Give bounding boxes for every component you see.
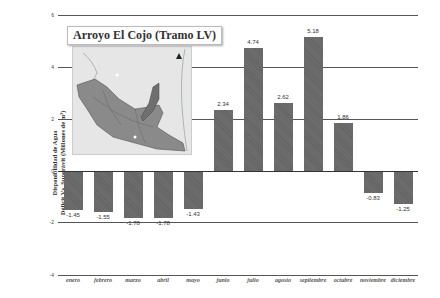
bar-agosto bbox=[274, 103, 293, 171]
bar-julio bbox=[244, 48, 263, 171]
bar-diciembre bbox=[394, 172, 413, 204]
x-tick-label: enero bbox=[56, 277, 90, 283]
y-tick: 0 bbox=[44, 168, 54, 174]
y-tick: -2 bbox=[44, 219, 54, 225]
value-label: 5.18 bbox=[295, 28, 331, 34]
x-tick-label: noviembre bbox=[356, 277, 390, 283]
x-tick-label: agosto bbox=[266, 277, 300, 283]
bar-marzo bbox=[124, 172, 143, 218]
bar-septiembre bbox=[304, 37, 323, 171]
value-label: 1.86 bbox=[325, 114, 361, 120]
gridline-neg2 bbox=[58, 222, 418, 223]
y-tick: 4 bbox=[44, 64, 54, 70]
bar-abril bbox=[154, 172, 173, 218]
x-tick-label: julio bbox=[236, 277, 270, 283]
value-label: -1.25 bbox=[385, 206, 421, 212]
y-tick: 2 bbox=[44, 116, 54, 122]
value-label: 2.34 bbox=[205, 101, 241, 107]
bar-noviembre bbox=[364, 172, 383, 193]
map-icon bbox=[73, 47, 191, 154]
value-label: -0.83 bbox=[355, 195, 391, 201]
value-label: 4.74 bbox=[235, 39, 271, 45]
value-label: -1.78 bbox=[145, 220, 181, 226]
chart-title: Arroyo El Cojo (Tramo LV) bbox=[67, 26, 222, 45]
gridline-neg4 bbox=[58, 275, 418, 276]
x-tick-label: junio bbox=[206, 277, 240, 283]
x-tick-label: diciembre bbox=[386, 277, 420, 283]
value-label: -1.43 bbox=[175, 211, 211, 217]
y-tick: 6 bbox=[44, 12, 54, 18]
bar-chart: Disponibilidad de Agua Déficit Vs. Super… bbox=[0, 0, 440, 298]
y-tick: -4 bbox=[44, 272, 54, 278]
bar-junio bbox=[214, 110, 233, 171]
bar-octubre bbox=[334, 123, 353, 171]
bar-mayo bbox=[184, 172, 203, 209]
bar-enero bbox=[64, 172, 83, 210]
x-tick-label: febrero bbox=[86, 277, 120, 283]
bar-febrero bbox=[94, 172, 113, 212]
x-tick-label: abril bbox=[146, 277, 180, 283]
x-tick-label: septiembre bbox=[296, 277, 330, 283]
value-label: 2.62 bbox=[265, 94, 301, 100]
x-tick-label: mayo bbox=[176, 277, 210, 283]
x-tick-label: octubre bbox=[326, 277, 360, 283]
x-tick-label: marzo bbox=[116, 277, 150, 283]
watershed-map-inset bbox=[72, 46, 192, 155]
gridline-6 bbox=[58, 15, 418, 16]
